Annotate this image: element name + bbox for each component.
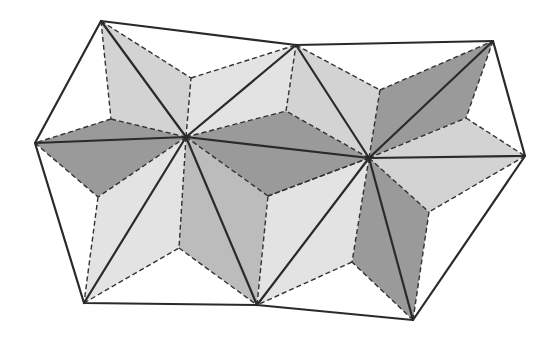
star-kite-tiling-diagram: Periodic tiling of two star-kite rosette…: [0, 0, 552, 345]
